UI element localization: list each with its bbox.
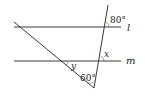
angle-label-x: x [104,49,109,59]
parallel-lines-diagram: 80° x y 60° l m [0,0,145,96]
angle-label-y: y [70,61,77,71]
angle-arc-80 [106,22,110,27]
line-label-m: m [126,55,135,66]
transversal-line [94,5,108,88]
line-label-l: l [127,22,130,33]
angle-label-60: 60° [80,73,96,83]
angle-label-80: 80° [110,15,126,25]
